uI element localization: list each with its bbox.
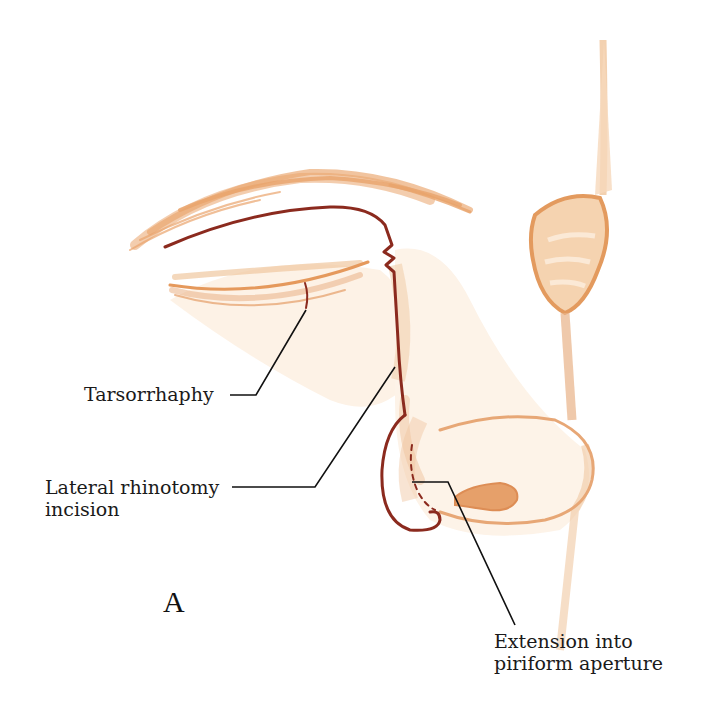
lateral-rhinotomy-label: Lateral rhinotomy incision [45,476,219,520]
lateral-rhinotomy-label-line2: incision [45,498,219,520]
extension-label-line2: piriform aperture [494,652,663,674]
skin-shading [170,249,589,536]
extension-label: Extension into piriform aperture [494,630,663,674]
surgical-illustration: Tarsorrhaphy Lateral rhinotomy incision … [0,0,721,715]
eyebrow [130,172,470,250]
panel-letter: A [163,585,185,619]
extension-label-line1: Extension into [494,630,663,652]
contralateral-orbit [531,40,612,650]
face-drawing [0,0,721,715]
tarsorrhaphy-label: Tarsorrhaphy [84,383,214,405]
lateral-rhinotomy-label-line1: Lateral rhinotomy [45,476,219,498]
